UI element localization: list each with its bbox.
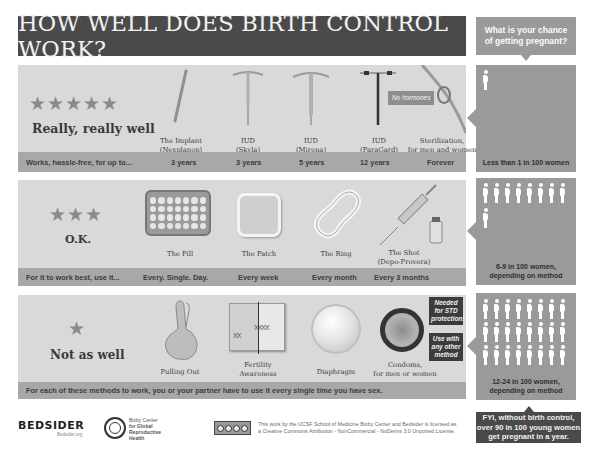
fyi-callout: FYI, without birth control,over 90 in 10… (476, 412, 581, 443)
woman-figure-icon (505, 345, 511, 365)
usage-strip: Works, hassle-free, for up to... 3 years… (18, 152, 466, 172)
woman-figure-icon (505, 322, 511, 342)
five-stars-icon: ★★★★★ (29, 92, 118, 115)
woman-figure-icon (538, 183, 544, 203)
usage-prompt: For it to work best, use it... (26, 273, 120, 282)
tier-ok: ★★★ O.K. The Pill The Patch The Ring The… (18, 180, 466, 286)
woman-figure-icon (549, 183, 555, 203)
woman-figure-icon (538, 345, 544, 365)
calendar-icon: XX XXXX (229, 303, 285, 351)
woman-figure-icon (505, 299, 511, 319)
method-label: The Patch (242, 250, 276, 259)
usage-prompt: For each of these methods to work, you o… (26, 386, 383, 395)
woman-figure-icon (483, 299, 489, 319)
method-label: Pulling Out (160, 368, 199, 377)
bedsider-url[interactable]: Bedsider.org (57, 432, 82, 437)
page-title: HOW WELL DOES BIRTH CONTROL WORK? (18, 16, 466, 56)
woman-figure-icon (516, 322, 522, 342)
iud-icon (231, 67, 265, 127)
ring-icon (310, 186, 362, 240)
odds-text: 6-9 in 100 women,depending on method (476, 262, 576, 280)
woman-figure-icon (494, 183, 500, 203)
duration: Every. Single. Day. (143, 273, 208, 282)
usage-prompt: Works, hassle-free, for up to... (26, 158, 132, 167)
odds-box-tier3: 12-24 in 100 women,depending on method (476, 293, 576, 400)
odds-text: 12-24 in 100 women,depending on method (476, 377, 576, 395)
three-stars-icon: ★★★ (49, 203, 102, 226)
woman-figure-icon (527, 322, 533, 342)
pregnant-women-figures (483, 299, 570, 365)
method-label: FertilityAwareness (239, 361, 276, 379)
pointer-arrow-icon (467, 222, 476, 240)
woman-figure-icon (483, 345, 489, 365)
iud-icon (291, 67, 331, 127)
down-arrow-icon (521, 55, 531, 61)
std-protection-callout: Neededfor STDprotection! (429, 297, 463, 325)
patch-icon (237, 193, 281, 237)
method-label: The Pill (167, 250, 193, 259)
woman-figure-icon (483, 183, 489, 203)
method-label: Condoms,for men or women (373, 361, 436, 379)
woman-figure-icon (560, 299, 566, 319)
duration: 3 years (171, 158, 196, 167)
odds-text: Less than 1 in 100 women (476, 158, 576, 167)
cc-license-badge[interactable] (214, 421, 251, 435)
crossed-fingers-icon (158, 299, 204, 363)
woman-figure-icon (560, 345, 566, 365)
license-text: This work by the UCSF School of Medicine… (258, 421, 456, 435)
duration: Every month (312, 273, 357, 282)
woman-figure-icon (483, 208, 489, 228)
woman-figure-icon (527, 183, 533, 203)
woman-figure-icon (560, 322, 566, 342)
woman-figure-icon (527, 345, 533, 365)
pregnant-women-figures (483, 70, 570, 90)
woman-figure-icon (494, 299, 500, 319)
woman-figure-icon (549, 299, 555, 319)
woman-figure-icon (516, 299, 522, 319)
method-label: The Shot(Depo-Provera) (378, 249, 431, 267)
one-star-icon: ★ (68, 317, 85, 340)
bixby-logo-icon (104, 417, 126, 439)
woman-figure-icon (494, 345, 500, 365)
woman-figure-icon (516, 345, 522, 365)
duration: 5 years (299, 158, 324, 167)
woman-figure-icon (483, 322, 489, 342)
pill-pack-icon (145, 190, 211, 236)
pointer-arrow-icon (467, 109, 476, 127)
rating-label: Not as well (50, 348, 124, 362)
woman-figure-icon (538, 322, 544, 342)
woman-figure-icon (516, 183, 522, 203)
woman-figure-icon (538, 299, 544, 319)
method-label: The Ring (320, 250, 351, 259)
method-label: Diaphragm (317, 368, 356, 377)
duration: Every week (238, 273, 278, 282)
tier-not-as-well: ★ Not as well Pulling Out XX XXXX Fertil… (18, 295, 466, 399)
chance-header: What is your chance of getting pregnant? (476, 17, 576, 55)
usage-strip: For it to work best, use it... Every. Si… (18, 268, 466, 286)
use-with-other-method-callout: Use withany othermethod (429, 333, 463, 361)
implant-rod-icon (170, 69, 190, 124)
bixby-center-name: Bixby Centerfor GlobalReproductiveHealth (129, 417, 161, 441)
sterilization-tube-icon (420, 65, 466, 135)
woman-figure-icon (483, 70, 489, 90)
woman-figure-icon (505, 183, 511, 203)
woman-figure-icon (560, 183, 566, 203)
woman-figure-icon (494, 322, 500, 342)
duration: Forever (427, 158, 454, 167)
diaphragm-icon (311, 304, 361, 354)
odds-box-tier1: Less than 1 in 100 women (476, 65, 576, 172)
duration: Every 3 months (374, 273, 429, 282)
pointer-arrow-icon (467, 337, 476, 355)
rating-label: Really, really well (32, 121, 155, 136)
woman-figure-icon (527, 299, 533, 319)
pregnant-women-figures (483, 183, 570, 228)
woman-figure-icon (549, 345, 555, 365)
usage-strip: For each of these methods to work, you o… (18, 382, 466, 399)
duration: 3 years (236, 158, 261, 167)
bedsider-logo[interactable]: BEDSIDER (18, 419, 84, 432)
syringe-icon (376, 183, 444, 249)
odds-box-tier2: 6-9 in 100 women,depending on method (476, 178, 576, 285)
rating-label: O.K. (65, 233, 91, 246)
duration: 12 years (360, 158, 390, 167)
tier-really-well: ★★★★★ Really, really well The Implant(Ne… (18, 65, 466, 172)
